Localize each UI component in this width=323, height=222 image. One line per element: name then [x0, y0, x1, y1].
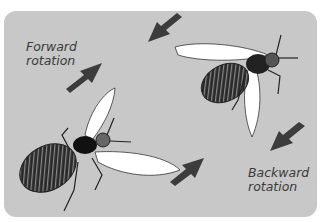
bee-upper-icon — [175, 35, 298, 137]
arrow-down-left-icon — [148, 13, 182, 42]
bee-lower-icon — [11, 88, 180, 211]
arrow-down-left-icon — [270, 122, 305, 151]
bee-rotation-illustration — [0, 0, 323, 222]
arrow-up-right-icon — [66, 63, 102, 93]
